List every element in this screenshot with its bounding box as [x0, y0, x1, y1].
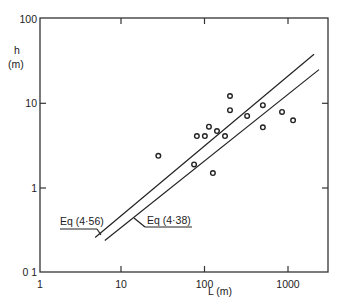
x-tick-label: 1: [37, 278, 43, 290]
data-point-circle: [291, 118, 296, 123]
line-label: Eq (4·56): [60, 215, 104, 227]
data-point-circle: [211, 171, 216, 176]
y-tick-label: 10: [25, 97, 37, 109]
x-axis-ticks: 1101001000: [37, 18, 300, 290]
y-tick-label: 100: [19, 13, 37, 25]
data-point-circle: [261, 125, 266, 130]
label-leader: [134, 218, 145, 227]
x-tick-label: 10: [115, 278, 127, 290]
data-point-circle: [203, 134, 208, 139]
data-point-circle: [223, 134, 228, 139]
data-point-circle: [261, 103, 266, 108]
x-tick-label: 1000: [276, 278, 300, 290]
plot-frame: [40, 18, 328, 272]
fit-lines: [95, 54, 319, 240]
fit-line: [105, 70, 319, 241]
data-point-circle: [228, 94, 233, 99]
data-point-circle: [192, 162, 197, 167]
data-point-circle: [228, 108, 233, 113]
data-point-circle: [245, 114, 250, 119]
line-label: Eq (4·38): [147, 214, 191, 226]
data-point-circle: [280, 110, 285, 115]
data-point-circle: [207, 124, 212, 129]
fit-line: [95, 54, 314, 237]
scatter-chart: 1101001000 0 1110100 Eq (4·56)Eq (4·38) …: [0, 0, 340, 303]
line-annotations: Eq (4·56)Eq (4·38): [60, 214, 192, 235]
data-points: [156, 94, 295, 176]
y-axis-label-symbol: h: [14, 44, 20, 56]
data-point-circle: [156, 153, 161, 158]
data-point-circle: [195, 134, 200, 139]
x-axis-label: L (m): [208, 285, 232, 297]
y-axis-ticks: 0 1110100: [19, 13, 328, 278]
y-axis-label-unit: (m): [8, 58, 24, 70]
y-tick-label: 1: [31, 182, 37, 194]
y-tick-label: 0 1: [22, 266, 37, 278]
data-point-circle: [215, 129, 220, 134]
